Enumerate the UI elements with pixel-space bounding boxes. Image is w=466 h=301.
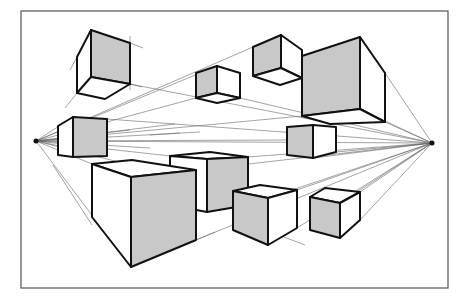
right-vanishing-point [430,141,435,146]
cube-center-small [196,66,240,103]
cube-right-middle [287,125,336,158]
left-vanishing-point [34,139,39,144]
perspective-drawing [0,0,466,301]
perspective-diagram [0,0,466,301]
cube-face-shaded [73,117,107,157]
cube-face-side [313,125,336,158]
cube-face-shaded [287,125,313,158]
cube-left-small [58,117,107,157]
cube-face-shaded [310,197,340,238]
